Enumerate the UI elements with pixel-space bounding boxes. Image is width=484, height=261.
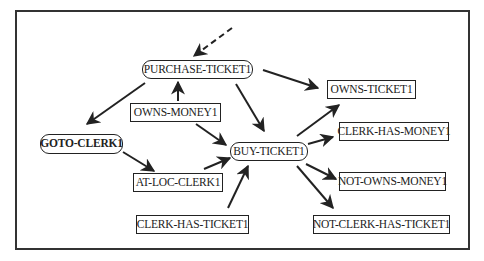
node-clerk-has-ticket1: CLERK-HAS-TICKET1 xyxy=(136,215,249,234)
node-label: BUY-TICKET1 xyxy=(233,146,304,158)
node-goto-clerk1: GOTO-CLERK1 xyxy=(40,134,123,154)
edge-goto-clerk1-to-at-loc-clerk1 xyxy=(123,152,154,171)
node-label: CLERK-HAS-TICKET1 xyxy=(137,219,249,231)
node-label: NOT-OWNS-MONEY1 xyxy=(338,176,447,188)
edge-purchase-ticket1-to-buy-ticket1 xyxy=(236,84,264,131)
node-label: OWNS-TICKET1 xyxy=(331,84,413,96)
node-label: OWNS-MONEY1 xyxy=(134,107,217,119)
edge-external-to-purchase-ticket1 xyxy=(194,28,232,56)
edge-clerk-has-ticket1-to-buy-ticket1 xyxy=(228,166,248,208)
edge-owns-money1-to-buy-ticket1 xyxy=(196,124,226,145)
node-owns-money1: OWNS-MONEY1 xyxy=(130,103,221,122)
node-not-clerk-has-ticket1: NOT-CLERK-HAS-TICKET1 xyxy=(313,215,450,234)
node-label: NOT-CLERK-HAS-TICKET1 xyxy=(313,219,450,231)
node-buy-ticket1: BUY-TICKET1 xyxy=(230,142,308,161)
node-clerk-has-money1: CLERK-HAS-MONEY1 xyxy=(339,122,449,141)
node-label: AT-LOC-CLERK1 xyxy=(136,177,221,189)
edge-buy-ticket1-to-not-clerk-has-ticket1 xyxy=(297,166,333,208)
edge-buy-ticket1-to-clerk-has-money1 xyxy=(308,137,333,144)
node-purchase-ticket1: PURCHASE-TICKET1 xyxy=(142,60,253,79)
node-label: GOTO-CLERK1 xyxy=(40,138,123,150)
edge-at-loc-clerk1-to-buy-ticket1 xyxy=(204,158,230,169)
node-label: CLERK-HAS-MONEY1 xyxy=(337,126,450,138)
node-owns-ticket1: OWNS-TICKET1 xyxy=(327,80,416,99)
edge-buy-ticket1-to-owns-ticket1 xyxy=(297,105,339,136)
node-not-owns-money1: NOT-OWNS-MONEY1 xyxy=(339,172,446,191)
edge-purchase-ticket1-to-owns-ticket1 xyxy=(263,70,318,88)
edge-buy-ticket1-to-not-owns-money1 xyxy=(306,164,336,179)
node-at-loc-clerk1: AT-LOC-CLERK1 xyxy=(133,173,223,192)
node-label: PURCHASE-TICKET1 xyxy=(144,64,251,76)
